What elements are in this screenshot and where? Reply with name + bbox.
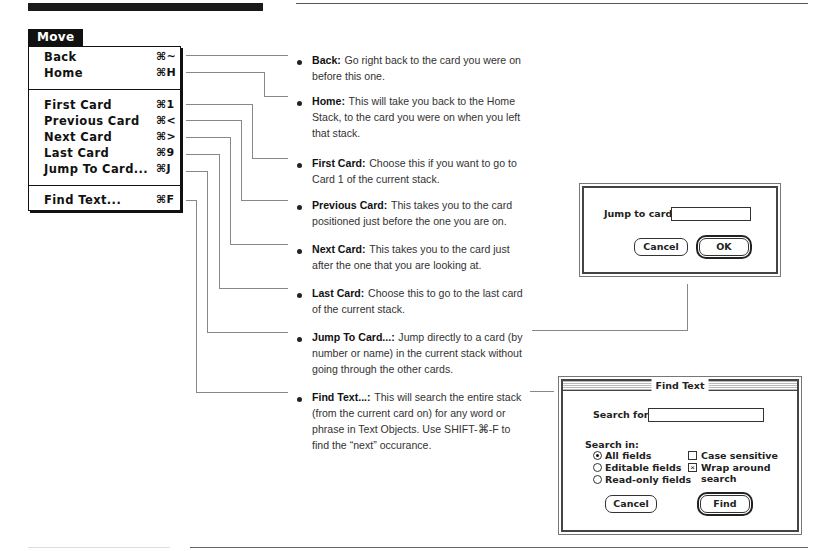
menu-item-label: Find Text... <box>44 192 121 208</box>
shortcut-label: ⌘J <box>156 161 171 177</box>
desc-previous-card: Previous Card:This takes you to the card… <box>312 197 524 229</box>
bullet-icon <box>297 60 302 65</box>
menu-item-last-card[interactable]: Last Card ⌘9 <box>44 145 179 161</box>
menu-separator <box>29 185 180 186</box>
shortcut-label: ⌘1 <box>156 97 175 113</box>
cancel-button[interactable]: Cancel <box>605 495 657 513</box>
menu-item-first-card[interactable]: First Card ⌘1 <box>44 97 179 113</box>
header-rule-thick <box>28 3 263 11</box>
menu-item-label: Back <box>44 49 77 65</box>
menu-item-label: Last Card <box>44 145 109 161</box>
jump-to-card-dialog: Jump to card: Cancel OK <box>582 186 778 274</box>
checkbox-label: Wrap around search <box>701 462 797 484</box>
desc-home: Home:This will take you back to the Home… <box>312 93 524 141</box>
checkbox-wrap-around[interactable]: × <box>688 463 697 472</box>
menu-item-label: Jump To Card... <box>44 161 148 177</box>
desc-term: First Card: <box>312 157 366 169</box>
menu-item-home[interactable]: Home ⌘H <box>44 65 179 81</box>
bullet-icon <box>297 163 302 168</box>
desc-back: Back:Go right back to the card you were … <box>312 52 524 84</box>
desc-term: Next Card: <box>312 243 366 255</box>
menu-item-label: Home <box>44 65 83 81</box>
menu-item-back[interactable]: Back ⌘~ <box>44 49 179 65</box>
desc-next-card: Next Card:This takes you to the card jus… <box>312 241 524 273</box>
desc-term: Home: <box>312 95 345 107</box>
shortcut-label: ⌘> <box>156 129 176 145</box>
menu-title-move[interactable]: Move <box>28 29 83 46</box>
footer-rule-left <box>28 547 170 548</box>
search-input[interactable] <box>648 408 764 422</box>
desc-find-text: Find Text...:This will search the entire… <box>312 389 524 453</box>
search-in-label: Search in: <box>585 439 639 450</box>
desc-jump-to-card: Jump To Card...:Jump directly to a card … <box>312 329 524 377</box>
bullet-icon <box>297 397 302 402</box>
search-for-label: Search for: <box>593 409 652 420</box>
menu-item-previous-card[interactable]: Previous Card ⌘< <box>44 113 179 129</box>
shortcut-label: ⌘H <box>156 65 176 81</box>
header-rule-thin <box>296 3 808 4</box>
shortcut-label: ⌘9 <box>156 145 175 161</box>
desc-term: Back: <box>312 54 341 66</box>
find-text-dialog: Find Text Search for: Search in: All fie… <box>561 379 799 532</box>
bullet-icon <box>297 249 302 254</box>
dialog-title: Find Text <box>652 379 709 392</box>
menu-item-find-text[interactable]: Find Text... ⌘F <box>44 192 179 208</box>
radio-label: All fields <box>605 450 651 461</box>
desc-last-card: Last Card:Choose this to go to the last … <box>312 285 524 317</box>
radio-all-fields[interactable] <box>593 451 602 460</box>
find-button[interactable]: Find <box>700 495 750 513</box>
menu-item-next-card[interactable]: Next Card ⌘> <box>44 129 179 145</box>
cancel-button[interactable]: Cancel <box>634 238 688 256</box>
footer-rule-right <box>190 547 808 548</box>
checkbox-case-sensitive[interactable] <box>688 451 697 460</box>
bullet-icon <box>297 293 302 298</box>
menu-item-label: Previous Card <box>44 113 140 129</box>
menu-item-label: First Card <box>44 97 112 113</box>
desc-first-card: First Card:Choose this if you want to go… <box>312 155 524 187</box>
desc-term: Jump To Card...: <box>312 331 395 343</box>
desc-term: Previous Card: <box>312 199 387 211</box>
desc-term: Last Card: <box>312 287 364 299</box>
menu-item-jump-to-card[interactable]: Jump To Card... ⌘J <box>44 161 179 177</box>
radio-read-only-fields[interactable] <box>593 475 602 484</box>
bullet-icon <box>297 101 302 106</box>
menu-separator <box>29 89 180 90</box>
radio-label: Read-only fields <box>605 474 691 485</box>
shortcut-label: ⌘F <box>156 192 175 208</box>
radio-label: Editable fields <box>605 462 682 473</box>
checkbox-label: Case sensitive <box>701 450 778 461</box>
jump-to-card-label: Jump to card: <box>604 208 676 219</box>
desc-term: Find Text...: <box>312 391 371 403</box>
shortcut-label: ⌘< <box>156 113 176 129</box>
bullet-icon <box>297 205 302 210</box>
jump-to-card-input[interactable] <box>671 207 751 221</box>
desc-text: Go right back to the card you were on be… <box>312 54 521 82</box>
bullet-icon <box>297 337 302 342</box>
move-menu: Back ⌘~ Home ⌘H First Card ⌘1 Previous C… <box>28 46 181 211</box>
shortcut-label: ⌘~ <box>156 49 176 65</box>
ok-button[interactable]: OK <box>699 238 749 256</box>
menu-item-label: Next Card <box>44 129 112 145</box>
radio-editable-fields[interactable] <box>593 463 602 472</box>
dialog-titlebar[interactable]: Find Text <box>563 381 797 391</box>
